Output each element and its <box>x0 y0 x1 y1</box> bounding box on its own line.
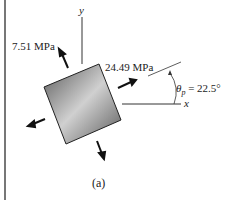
arrow-up-left <box>62 54 68 68</box>
stress-element-diagram <box>0 0 231 200</box>
figure-caption: (a) <box>92 176 105 191</box>
angle-arrowhead <box>168 70 172 75</box>
theta-subscript: p <box>181 88 185 97</box>
stress-label-1: 7.51 MPa <box>12 40 55 52</box>
x-axis-label: x <box>184 97 189 109</box>
stress-label-2: 24.49 MPa <box>105 61 153 73</box>
arrow-right <box>118 82 131 88</box>
angle-value: = 22.5° <box>188 82 221 94</box>
stress-element-square <box>44 64 121 144</box>
angle-label: θp = 22.5° <box>176 82 221 97</box>
y-axis-label: y <box>79 4 84 16</box>
